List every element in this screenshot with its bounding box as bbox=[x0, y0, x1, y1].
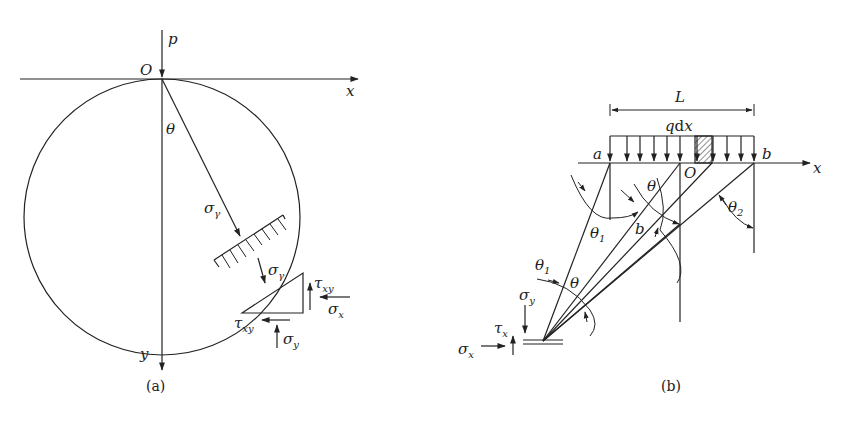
label-sigma-r-element: σγ bbox=[268, 261, 284, 281]
load-arrows bbox=[610, 136, 754, 161]
figure-a: p O x y θ σγ σγ τxy σx τxy σy (a) bbox=[20, 30, 358, 394]
caption-b: (b) bbox=[661, 378, 681, 394]
arc-theta-long bbox=[657, 178, 681, 283]
label-y-a: y bbox=[139, 345, 149, 363]
label-origin-a: O bbox=[140, 61, 152, 79]
label-theta-a: θ bbox=[166, 120, 175, 138]
stress-element-triangle bbox=[242, 273, 303, 313]
label-theta1-lower: θ1 bbox=[535, 256, 550, 276]
label-theta-upper: θ bbox=[647, 177, 656, 195]
label-theta1-upper: θ1 bbox=[590, 224, 605, 244]
label-L: L bbox=[674, 88, 685, 106]
label-tau-xy-bottom: τxy bbox=[234, 314, 254, 334]
label-sigma-r-radial: σγ bbox=[204, 199, 220, 219]
arc-theta2-start-arrow bbox=[719, 195, 726, 205]
label-theta-lower: θ bbox=[570, 274, 579, 292]
label-qdx: qdx bbox=[665, 117, 693, 135]
diagram-canvas: p O x y θ σγ σγ τxy σx τxy σy (a) L bbox=[0, 0, 853, 425]
label-origin-b: O bbox=[684, 164, 696, 182]
label-b-end: b bbox=[762, 145, 772, 163]
label-angle-b: b bbox=[635, 220, 645, 238]
figure-b: L qdx x a b O bbox=[458, 88, 822, 394]
label-x-b: x bbox=[813, 159, 822, 177]
label-x-a: x bbox=[346, 82, 355, 100]
label-p: p bbox=[168, 30, 178, 48]
label-tau-xy-right: τxy bbox=[314, 274, 334, 294]
arc-lower-theta-arrow bbox=[585, 312, 587, 322]
arc-upper-left-arrow bbox=[621, 190, 634, 202]
sigma-r-arrow bbox=[258, 258, 265, 283]
label-sigma-x-b: σx bbox=[458, 340, 474, 360]
label-sigma-y-b: σy bbox=[519, 286, 535, 306]
caption-a: (a) bbox=[146, 378, 165, 394]
load-element-qdx bbox=[695, 136, 712, 163]
label-sigma-y-a: σy bbox=[283, 330, 299, 350]
label-sigma-x-a: σx bbox=[328, 300, 344, 320]
label-tau-x-b: τx bbox=[494, 319, 508, 339]
label-a: a bbox=[593, 145, 602, 163]
arc-b-arrow bbox=[655, 228, 658, 237]
arc-lower bbox=[537, 279, 595, 336]
arc-theta1-start-arrow bbox=[578, 182, 585, 191]
label-theta2: θ2 bbox=[728, 198, 743, 218]
radial-stress-line bbox=[162, 79, 240, 236]
